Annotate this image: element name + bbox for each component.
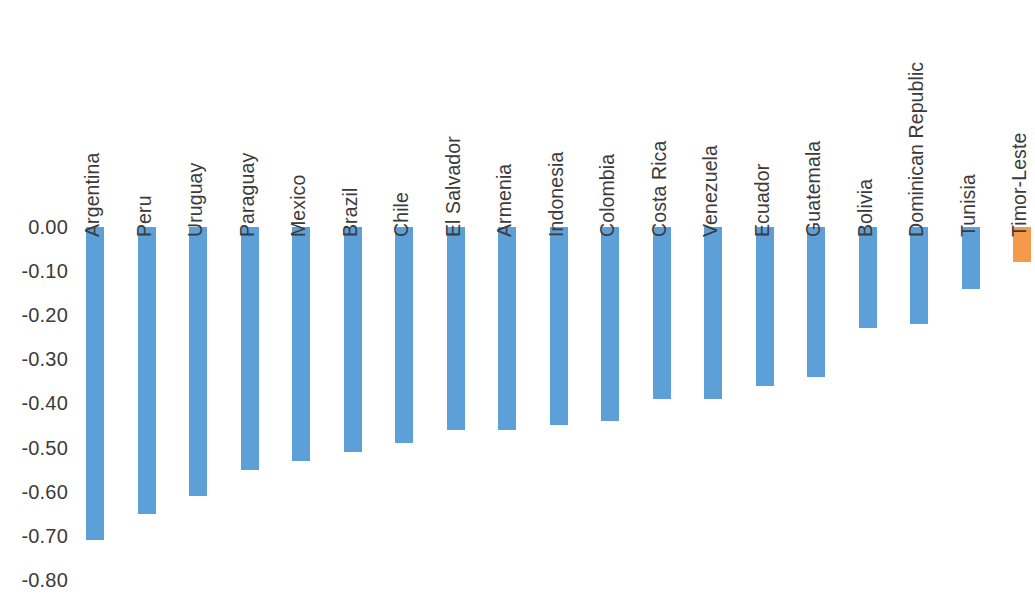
bar-group: Peru xyxy=(138,0,156,596)
y-axis-tick-label: -0.70 xyxy=(21,526,68,546)
x-axis-category-label: Guatemala xyxy=(803,141,823,237)
x-axis-category-label: Tunisia xyxy=(958,174,978,237)
x-axis-category-label: Armenia xyxy=(494,164,514,237)
bar[interactable] xyxy=(601,227,619,421)
bar-group: Mexico xyxy=(292,0,310,596)
x-axis-category-label: Mexico xyxy=(288,175,308,237)
bar-group: Uruguay xyxy=(189,0,207,596)
bar-group: Colombia xyxy=(601,0,619,596)
x-axis-category-label: Timor-Leste xyxy=(1009,133,1029,237)
bar-group: Chile xyxy=(395,0,413,596)
x-axis-category-label: Dominican Republic xyxy=(906,62,926,237)
bar[interactable] xyxy=(241,227,259,470)
y-axis: 0.00-0.10-0.20-0.30-0.40-0.50-0.60-0.70-… xyxy=(0,0,78,596)
x-axis-category-label: Costa Rica xyxy=(649,141,669,237)
bar-group: Paraguay xyxy=(241,0,259,596)
bar[interactable] xyxy=(910,227,928,324)
bar-group: Armenia xyxy=(498,0,516,596)
x-axis-category-label: Argentina xyxy=(82,153,102,237)
y-axis-tick-label: -0.40 xyxy=(21,393,68,413)
x-axis-category-label: Venezuela xyxy=(700,145,720,237)
x-axis-category-label: Paraguay xyxy=(237,153,257,237)
bar[interactable] xyxy=(550,227,568,425)
bar-group: Venezuela xyxy=(704,0,722,596)
y-axis-tick-label: -0.80 xyxy=(21,570,68,590)
x-axis-category-label: Brazil xyxy=(340,188,360,237)
x-axis-category-label: Peru xyxy=(134,195,154,237)
bar-chart: 0.00-0.10-0.20-0.30-0.40-0.50-0.60-0.70-… xyxy=(0,0,1035,596)
x-axis-category-label: Bolivia xyxy=(855,179,875,237)
y-axis-tick-label: -0.50 xyxy=(21,438,68,458)
x-axis-category-label: Indonesia xyxy=(546,152,566,237)
bar-group: Argentina xyxy=(86,0,104,596)
bar-group: Indonesia xyxy=(550,0,568,596)
bar[interactable] xyxy=(807,227,825,377)
bar-group: Brazil xyxy=(344,0,362,596)
bar-group: Dominican Republic xyxy=(910,0,928,596)
bar[interactable] xyxy=(653,227,671,399)
bar-group: Guatemala xyxy=(807,0,825,596)
bar[interactable] xyxy=(447,227,465,430)
bar-group: Timor-Leste xyxy=(1013,0,1031,596)
bar-group: Costa Rica xyxy=(653,0,671,596)
bar[interactable] xyxy=(704,227,722,399)
x-axis-category-label: El Salvador xyxy=(443,136,463,237)
x-axis-category-label: Colombia xyxy=(597,154,617,237)
bar[interactable] xyxy=(498,227,516,430)
bar-group: Tunisia xyxy=(962,0,980,596)
plot-area: ArgentinaPeruUruguayParaguayMexicoBrazil… xyxy=(78,0,1035,596)
bar[interactable] xyxy=(189,227,207,496)
bar-group: El Salvador xyxy=(447,0,465,596)
bar[interactable] xyxy=(292,227,310,461)
y-axis-tick-label: -0.30 xyxy=(21,349,68,369)
x-axis-category-label: Uruguay xyxy=(185,163,205,237)
bar-group: Bolivia xyxy=(859,0,877,596)
bar[interactable] xyxy=(756,227,774,386)
bar[interactable] xyxy=(344,227,362,452)
bar[interactable] xyxy=(86,227,104,540)
bar[interactable] xyxy=(395,227,413,443)
y-axis-tick-label: -0.60 xyxy=(21,482,68,502)
bar-group: Ecuador xyxy=(756,0,774,596)
y-axis-tick-label: -0.20 xyxy=(21,305,68,325)
bar[interactable] xyxy=(859,227,877,328)
x-axis-category-label: Ecuador xyxy=(752,164,772,237)
bar[interactable] xyxy=(138,227,156,514)
x-axis-category-label: Chile xyxy=(391,192,411,237)
y-axis-tick-label: -0.10 xyxy=(21,261,68,281)
y-axis-tick-label: 0.00 xyxy=(28,217,68,237)
